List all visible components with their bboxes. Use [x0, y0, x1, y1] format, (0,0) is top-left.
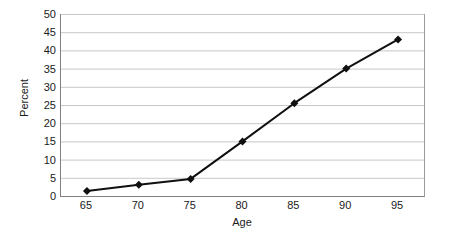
y-tick-label: 50: [44, 8, 56, 20]
line-chart: Percent 05101520253035404550 65707580859…: [0, 0, 449, 241]
x-tick-label: 75: [184, 199, 196, 211]
data-point-marker: [135, 181, 143, 189]
y-tick-label: 25: [44, 99, 56, 111]
data-point-markers: [83, 35, 402, 194]
x-tick-label: 80: [235, 199, 247, 211]
plot-svg: [61, 14, 424, 196]
data-point-marker: [394, 35, 402, 43]
data-point-marker: [83, 187, 91, 195]
x-tick-label: 95: [391, 199, 403, 211]
x-tick-label: 90: [339, 199, 351, 211]
y-tick-label: 10: [44, 154, 56, 166]
plot-area: [60, 14, 425, 197]
x-axis-title: Age: [60, 216, 424, 228]
y-axis-tick-labels: 05101520253035404550: [30, 0, 56, 241]
y-tick-label: 45: [44, 26, 56, 38]
y-tick-label: 15: [44, 135, 56, 147]
gridlines: [61, 15, 424, 179]
y-axis-title-label: Percent: [18, 79, 30, 117]
y-tick-label: 40: [44, 44, 56, 56]
y-tick-label: 35: [44, 63, 56, 75]
y-tick-label: 0: [50, 190, 56, 202]
y-tick-label: 30: [44, 81, 56, 93]
y-tick-label: 20: [44, 117, 56, 129]
x-tick-label: 70: [132, 199, 144, 211]
x-tick-label: 65: [80, 199, 92, 211]
data-series-line: [87, 39, 398, 190]
x-tick-label: 85: [287, 199, 299, 211]
x-axis-tick-labels: 65707580859095: [60, 199, 424, 215]
y-tick-label: 5: [50, 172, 56, 184]
